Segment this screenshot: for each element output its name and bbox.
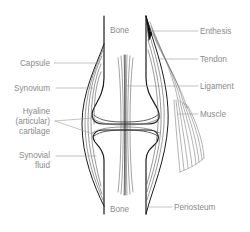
label-bone-top: Bone <box>110 26 129 35</box>
label-capsule: Capsule <box>20 59 50 68</box>
tendon-layers <box>150 22 187 108</box>
left-capsule-layers <box>82 44 104 206</box>
label-hyaline-2: (articular) <box>15 117 50 126</box>
leader-hyaline-2 <box>55 121 93 134</box>
leader-hyaline-1 <box>55 118 93 121</box>
label-bone-bottom: Bone <box>110 205 129 214</box>
label-synovial-1: Synovial <box>19 151 50 160</box>
right-capsule-layers <box>146 16 168 214</box>
label-synovial-2: fluid <box>35 161 50 170</box>
label-tendon: Tendon <box>200 55 227 64</box>
enthesis-shape <box>146 16 152 40</box>
label-periosteum: Periosteum <box>174 203 215 212</box>
label-hyaline-1: Hyaline <box>23 107 50 116</box>
label-enthesis: Enthesis <box>200 27 231 36</box>
label-muscle: Muscle <box>200 110 226 119</box>
label-ligament: Ligament <box>200 82 234 91</box>
label-hyaline-3: cartilage <box>19 127 50 136</box>
lower-bone-outline <box>93 130 158 214</box>
label-synovium: Synovium <box>14 84 50 93</box>
